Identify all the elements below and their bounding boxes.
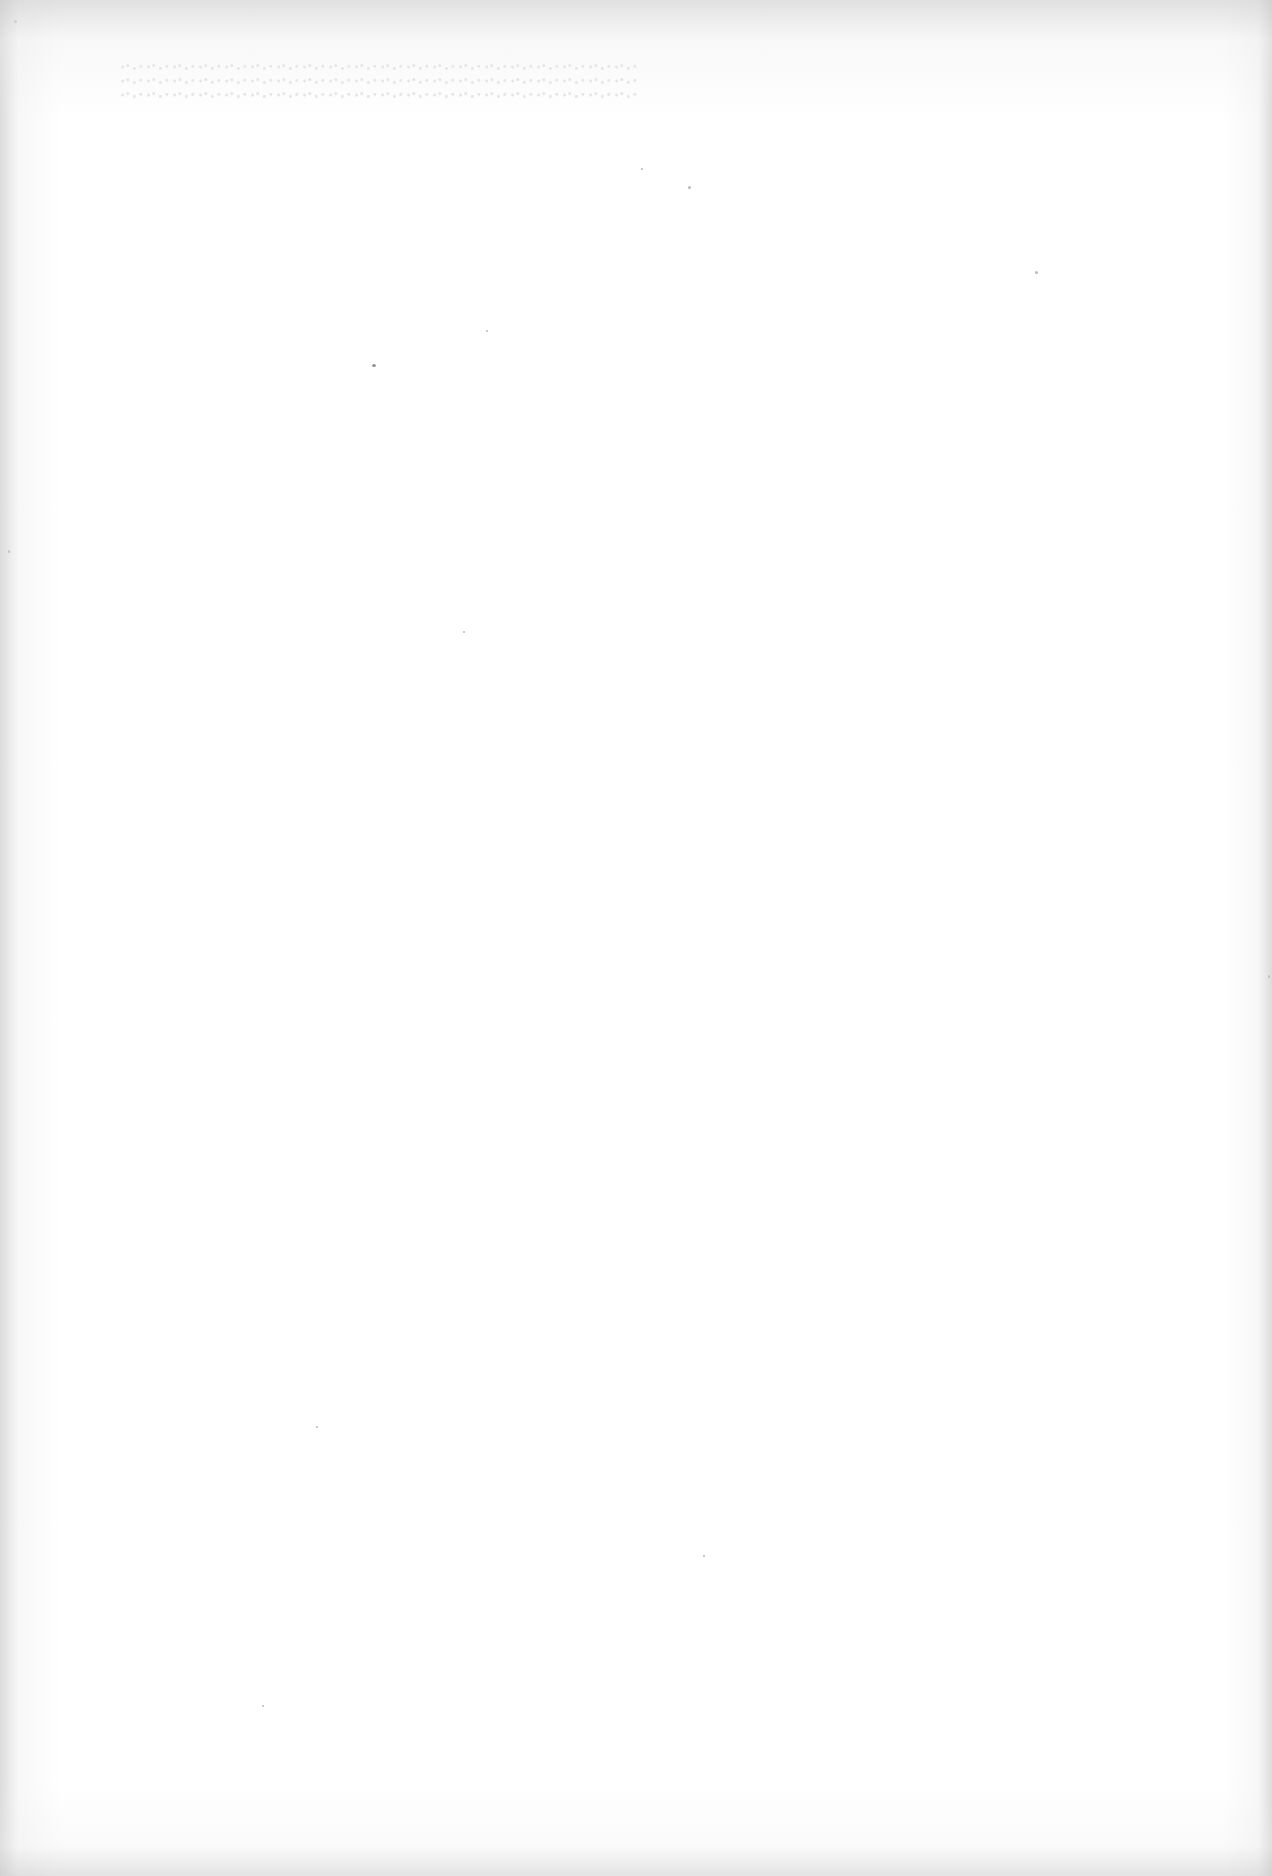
- scan-speck: [463, 631, 465, 633]
- scan-speck: [641, 168, 643, 170]
- blank-page: [0, 0, 1272, 1876]
- scan-speck: [262, 1705, 264, 1707]
- scan-speck: [8, 550, 10, 553]
- scan-speck: [486, 330, 488, 332]
- scan-speck: [316, 1426, 318, 1428]
- scan-speck: [688, 186, 691, 189]
- scan-speck: [1268, 975, 1270, 978]
- scan-noise-band: [120, 60, 640, 100]
- scan-speck: [372, 364, 376, 367]
- scan-speck: [703, 1555, 705, 1557]
- scan-speck: [14, 20, 17, 23]
- scan-speck: [1035, 271, 1038, 274]
- scan-edge-shadow: [0, 0, 1272, 1876]
